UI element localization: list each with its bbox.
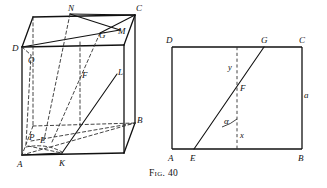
label-right-A: A (167, 153, 174, 163)
geometry-figure-svg: N C D G M O F L B P E A K (0, 0, 327, 188)
label-left-N: N (67, 3, 75, 13)
right-rectangle-figure: D G C y F a α x A E B (165, 35, 309, 163)
hidden-line-N-to-F-down (44, 14, 70, 140)
line-N-to-C (70, 14, 135, 15)
label-left-E: E (39, 135, 46, 145)
label-right-a: a (304, 90, 309, 100)
label-left-P: P (28, 132, 35, 142)
label-left-C: C (136, 3, 143, 13)
hidden-line-G-to-E (52, 33, 100, 142)
hidden-line-A-to-B (22, 123, 135, 155)
label-right-E: E (189, 153, 196, 163)
label-left-G: G (99, 30, 106, 40)
edge-top-left-slant (22, 17, 33, 47)
figure-caption: Fig. 40 (0, 168, 327, 178)
figure-container: N C D G M O F L B P E A K (0, 0, 327, 188)
label-right-G: G (261, 35, 268, 45)
label-right-D: D (165, 35, 173, 45)
label-right-F: F (239, 83, 246, 93)
label-left-L: L (117, 67, 123, 77)
edge-bottom-right-slant (124, 123, 135, 153)
label-left-B: B (137, 115, 143, 125)
label-left-M: M (117, 26, 126, 36)
label-right-B: B (298, 153, 304, 163)
label-right-y: y (227, 62, 232, 72)
label-left-O: O (28, 55, 35, 65)
label-left-F: F (81, 70, 88, 80)
label-left-K: K (58, 158, 66, 168)
left-prism-figure: N C D G M O F L B P E A K (11, 3, 143, 169)
figure-caption-prefix: Fig. (149, 168, 165, 178)
hidden-line-O-vertical (26, 55, 31, 144)
label-right-C: C (299, 35, 306, 45)
label-left-D: D (11, 43, 19, 53)
label-right-x: x (239, 130, 244, 140)
line-K-to-L (62, 74, 117, 153)
edge-front-top (22, 45, 124, 47)
hidden-line-D-to-O (22, 47, 31, 55)
label-right-alpha: α (224, 116, 229, 126)
figure-caption-number: 40 (168, 168, 178, 178)
